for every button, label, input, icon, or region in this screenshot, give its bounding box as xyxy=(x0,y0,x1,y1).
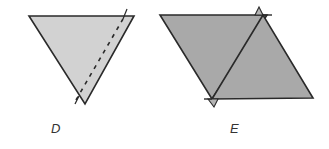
figure-e-label: E xyxy=(230,122,239,135)
figures-svg xyxy=(0,0,329,149)
figure-e-top-tip xyxy=(255,7,263,15)
diagram-canvas: D E xyxy=(0,0,329,149)
figure-d xyxy=(29,9,134,104)
figure-e xyxy=(160,7,313,107)
figure-d-label: D xyxy=(51,122,60,135)
figure-e-bottom-tip xyxy=(208,99,218,107)
